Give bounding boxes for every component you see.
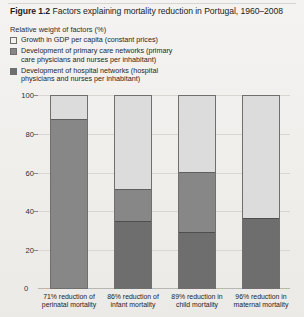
ytick-label-80: 80 [26, 129, 34, 138]
legend-item-primary-care: Development of primary care networks (pr… [10, 47, 260, 64]
chart-legend: Growth in GDP per capita (constant price… [10, 36, 260, 86]
bar-group-perinatal: 71% reduction of perinatal mortality [50, 95, 88, 289]
bar-segment-gdp-perinatal [51, 96, 87, 119]
ytick-label-40: 40 [26, 207, 34, 216]
legend-item-gdp: Growth in GDP per capita (constant price… [10, 36, 260, 45]
bar-group-child: 89% reduction in child mortality [178, 95, 216, 289]
bar-segment-gdp-child [179, 96, 215, 172]
bar-label-child: 89% reduction in child mortality [161, 293, 233, 309]
legend-swatch-icon-primary-care [10, 48, 17, 55]
bar-stack-maternal [242, 95, 280, 289]
bar-label-infant: 86% reduction of infant mortality [97, 293, 169, 309]
bar-stack-child [178, 95, 216, 289]
bar-series-container: 71% reduction of perinatal mortality 86%… [38, 95, 290, 289]
figure-title: Figure 1.2 Factors explaining mortality … [10, 6, 298, 17]
legend-label-hospital: Development of hospital networks (hospit… [21, 67, 158, 84]
legend-swatch-icon-hospital [10, 68, 17, 75]
legend-label-gdp: Growth in GDP per capita (constant price… [21, 36, 158, 45]
legend-label-primary-care: Development of primary care networks (pr… [21, 47, 172, 64]
bar-segment-gdp-maternal [243, 96, 279, 218]
bar-stack-infant [114, 95, 152, 289]
bar-segment-hospital-infant [115, 221, 151, 289]
bar-segment-hospital-maternal [243, 218, 279, 288]
bar-segment-gdp-infant [115, 96, 151, 189]
bar-segment-primary-care-infant [115, 189, 151, 220]
bar-segment-primary-care-child [179, 172, 215, 232]
bar-group-maternal: 96% reduction in maternal mortality [242, 95, 280, 289]
figure-title-text: Factors explaining mortality reduction i… [52, 6, 283, 16]
bar-stack-perinatal [50, 95, 88, 289]
ytick-label-60: 60 [26, 168, 34, 177]
plot-area: 100 80 60 40 20 71% reduction of perinat… [38, 95, 290, 289]
bar-label-maternal: 96% reduction in maternal mortality [225, 293, 297, 309]
header-divider [8, 3, 296, 4]
legend-swatch-icon-gdp [10, 37, 17, 44]
bar-segment-primary-care-perinatal [51, 119, 87, 288]
ytick-label-100: 100 [21, 91, 34, 100]
ytick-label-0: 0 [24, 284, 28, 293]
chart-subtitle: Relative weight of factors (%) [10, 25, 106, 34]
bar-segment-hospital-child [179, 232, 215, 288]
figure-number: Figure 1.2 [10, 6, 50, 16]
legend-item-hospital: Development of hospital networks (hospit… [10, 67, 260, 84]
bar-label-perinatal: 71% reduction of perinatal mortality [33, 293, 105, 309]
bar-group-infant: 86% reduction of infant mortality [114, 95, 152, 289]
figure-container: Figure 1.2 Factors explaining mortality … [0, 0, 304, 317]
ytick-label-20: 20 [26, 246, 34, 255]
